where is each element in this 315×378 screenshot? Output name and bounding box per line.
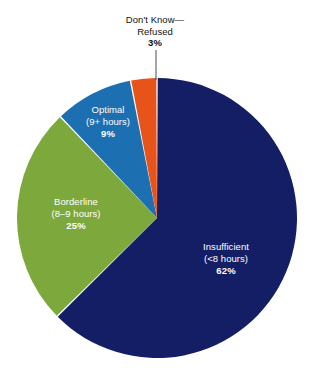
slice-label-borderline-line-1: Borderline [28,196,124,208]
slice-label-borderline-line-2: (8–9 hours) [28,208,124,220]
slice-label-optimal-value: 9% [62,128,154,140]
callout-line-2: Refused [137,26,173,37]
slice-label-insufficient: Insufficient (<8 hours) 62% [176,241,276,277]
pie-chart-svg [0,0,315,378]
slice-label-insufficient-value: 62% [176,265,276,277]
slice-label-insufficient-line-2: (<8 hours) [176,253,276,265]
slice-label-optimal: Optimal (9+ hours) 9% [62,104,154,140]
callout-line-1: Don't Know— [126,14,184,25]
slice-label-insufficient-line-1: Insufficient [176,241,276,253]
slice-label-borderline: Borderline (8–9 hours) 25% [28,196,124,232]
slice-callout-dont-know: Don't Know— Refused 3% [85,14,225,49]
slice-label-borderline-value: 25% [28,220,124,232]
callout-value: 3% [148,37,162,48]
slice-label-optimal-line-1: Optimal [62,104,154,116]
pie-chart: Don't Know— Refused 3% Optimal (9+ hours… [0,0,315,378]
slice-label-optimal-line-2: (9+ hours) [62,116,154,128]
